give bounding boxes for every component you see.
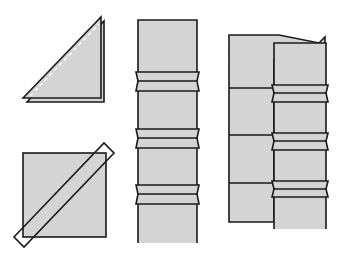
front-seam-band-3 [272, 181, 328, 197]
square-cut-diagonal [14, 143, 114, 247]
strip-on-panel [229, 35, 328, 229]
seam-band-3 [136, 185, 199, 204]
seam-band-2 [136, 129, 199, 148]
long-strip-seams [136, 20, 199, 243]
diagram-svg [0, 0, 339, 256]
front-seam-band-1 [272, 85, 328, 102]
seam-band-1 [136, 72, 199, 91]
folded-triangle [23, 17, 104, 102]
triangle-front-layer [23, 17, 101, 98]
front-seam-band-2 [272, 133, 328, 150]
diagram-canvas [0, 0, 339, 256]
square [23, 153, 106, 237]
